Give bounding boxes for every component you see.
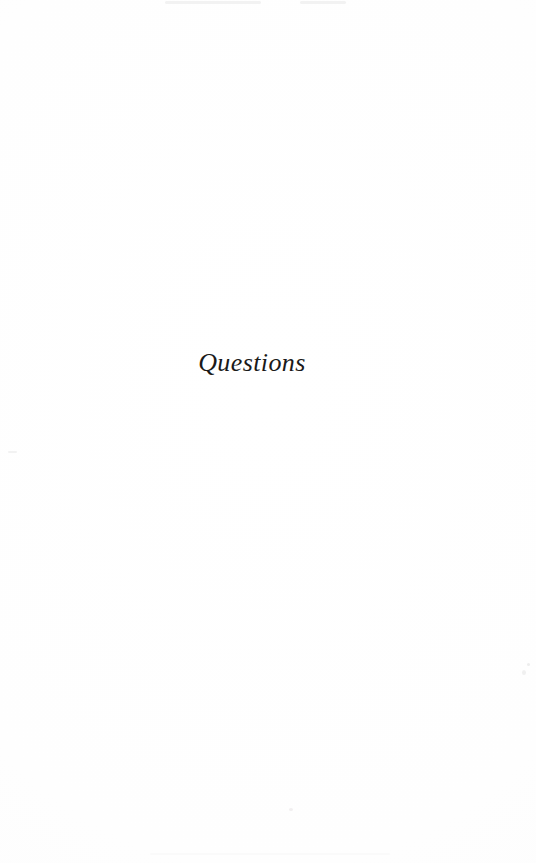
scan-artifact-speck: [527, 663, 530, 666]
scan-artifact-speck: [300, 1, 346, 4]
scanned-book-page: Questions: [0, 0, 536, 863]
paper-texture: [0, 0, 536, 863]
scan-artifact-speck: [289, 808, 293, 811]
scan-artifact-speck: [150, 853, 390, 855]
scan-artifact-speck: [522, 670, 526, 675]
scan-artifact-speck: [8, 451, 17, 453]
scan-artifact-speck: [165, 1, 261, 4]
part-title: Questions: [0, 348, 536, 378]
